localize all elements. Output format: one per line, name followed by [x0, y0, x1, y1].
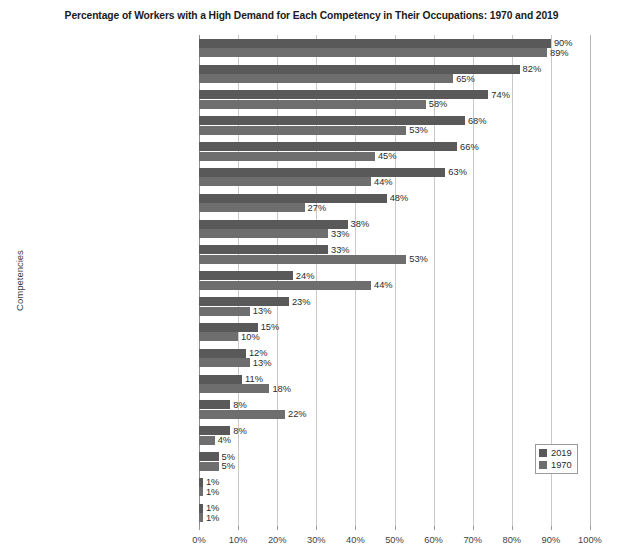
bar-1970: [199, 436, 215, 445]
tick-mark-10: [238, 526, 239, 530]
legend-item-2019: 2019: [539, 447, 572, 459]
bar-value-label: 33%: [331, 246, 350, 255]
bar-1970: [199, 152, 375, 161]
bar-2019: [199, 504, 203, 513]
bar-value-label: 5%: [222, 462, 235, 471]
x-tick-label-80: 80%: [490, 535, 534, 545]
bar-1970: [199, 384, 269, 393]
x-tick-label-30: 30%: [294, 535, 338, 545]
plot-area: 90%89%82%65%74%58%68%53%66%45%63%44%48%2…: [199, 35, 590, 526]
gridline-100: [590, 35, 591, 526]
x-tick-label-100: 100%: [568, 535, 612, 545]
bar-1970: [199, 462, 219, 471]
bar-2019: [199, 90, 488, 99]
bar-1970: [199, 126, 406, 135]
tick-mark-40: [355, 526, 356, 530]
legend-label-1970: 1970: [551, 459, 572, 471]
legend-label-2019: 2019: [551, 447, 572, 459]
tick-mark-90: [551, 526, 552, 530]
bar-1970: [199, 229, 328, 238]
bar-value-label: 48%: [390, 194, 409, 203]
bar-1970: [199, 203, 305, 212]
bar-2019: [199, 349, 246, 358]
bar-value-label: 11%: [245, 375, 263, 384]
x-tick-label-70: 70%: [451, 535, 495, 545]
bar-value-label: 12%: [249, 349, 268, 358]
legend-swatch-1970-icon: [539, 461, 547, 469]
gridline-70: [473, 35, 474, 526]
bar-value-label: 24%: [296, 272, 315, 281]
bar-1970: [199, 358, 250, 367]
bar-value-label: 68%: [468, 117, 487, 126]
bar-2019: [199, 400, 230, 409]
bar-2019: [199, 478, 203, 487]
bar-1970: [199, 307, 250, 316]
legend-swatch-2019-icon: [539, 449, 547, 457]
tick-mark-100: [590, 526, 591, 530]
bar-1970: [199, 100, 426, 109]
x-tick-label-90: 90%: [529, 535, 573, 545]
bar-value-label: 13%: [253, 359, 272, 368]
bar-value-label: 4%: [218, 436, 231, 445]
bar-value-label: 15%: [261, 323, 280, 332]
bar-value-label: 89%: [550, 49, 569, 58]
bar-value-label: 38%: [351, 220, 370, 229]
bar-1970: [199, 177, 371, 186]
bar-value-label: 58%: [429, 100, 448, 109]
bar-value-label: 33%: [331, 230, 350, 239]
bar-1970: [199, 410, 285, 419]
bar-value-label: 22%: [288, 410, 307, 419]
bar-value-label: 74%: [491, 91, 510, 100]
tick-mark-80: [512, 526, 513, 530]
bar-value-label: 63%: [448, 168, 467, 177]
bar-value-label: 90%: [554, 39, 573, 48]
bar-chart: Percentage of Workers with a High Demand…: [0, 0, 623, 555]
bar-value-label: 1%: [206, 488, 219, 497]
bar-2019: [199, 426, 230, 435]
tick-mark-30: [316, 526, 317, 530]
x-tick-label-20: 20%: [255, 535, 299, 545]
bar-value-label: 82%: [523, 65, 542, 74]
tick-mark-70: [473, 526, 474, 530]
bar-value-label: 23%: [292, 298, 311, 307]
bar-1970: [199, 48, 547, 57]
bar-1970: [199, 281, 371, 290]
bar-value-label: 66%: [460, 143, 479, 152]
x-tick-label-50: 50%: [373, 535, 417, 545]
bar-value-label: 13%: [253, 307, 272, 316]
chart-title: Percentage of Workers with a High Demand…: [0, 10, 623, 21]
tick-mark-20: [277, 526, 278, 530]
bar-value-label: 53%: [409, 255, 428, 264]
tick-mark-0: [199, 526, 200, 530]
bar-value-label: 27%: [308, 204, 327, 213]
bar-1970: [199, 74, 453, 83]
y-axis-title: Competencies: [14, 231, 25, 331]
legend-item-1970: 1970: [539, 459, 572, 471]
bar-value-label: 65%: [456, 75, 475, 84]
bar-value-label: 44%: [374, 281, 393, 290]
bar-2019: [199, 271, 293, 280]
bar-2019: [199, 116, 465, 125]
bar-value-label: 45%: [378, 152, 397, 161]
tick-mark-50: [395, 526, 396, 530]
bar-value-label: 10%: [241, 333, 260, 342]
legend: 2019 1970: [535, 444, 578, 474]
x-tick-label-40: 40%: [333, 535, 377, 545]
x-tick-label-60: 60%: [412, 535, 456, 545]
bar-2019: [199, 245, 328, 254]
bar-2019: [199, 39, 551, 48]
bar-2019: [199, 168, 445, 177]
bar-1970: [199, 513, 203, 522]
bar-2019: [199, 65, 520, 74]
bar-value-label: 1%: [206, 514, 219, 523]
bar-1970: [199, 255, 406, 264]
bar-2019: [199, 220, 348, 229]
bar-2019: [199, 375, 242, 384]
x-tick-label-0: 0%: [177, 535, 221, 545]
bar-value-label: 18%: [272, 385, 291, 394]
gridline-80: [512, 35, 513, 526]
tick-mark-60: [434, 526, 435, 530]
bar-value-label: 53%: [409, 126, 428, 135]
bar-2019: [199, 142, 457, 151]
bar-2019: [199, 323, 258, 332]
